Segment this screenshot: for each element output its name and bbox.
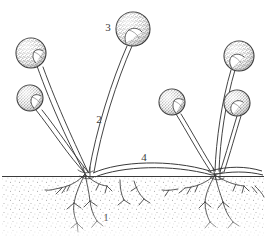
sporangium-upper-left bbox=[16, 38, 46, 68]
figure-root: 1 2 3 4 bbox=[0, 0, 266, 250]
sporangium-lower-right bbox=[224, 90, 250, 116]
label-3-sporangium: 3 bbox=[105, 21, 111, 33]
sporangium-upper-right bbox=[224, 41, 254, 71]
sporangium-top-center bbox=[116, 12, 150, 46]
bottom-fade bbox=[0, 212, 266, 250]
sporangium-mid-right bbox=[159, 89, 185, 115]
rhizopus-diagram: 1 2 3 4 bbox=[0, 0, 266, 250]
label-2-sporangiophore: 2 bbox=[96, 113, 102, 125]
sporangium-lower-left bbox=[17, 85, 43, 111]
label-4-stolon: 4 bbox=[141, 151, 147, 163]
